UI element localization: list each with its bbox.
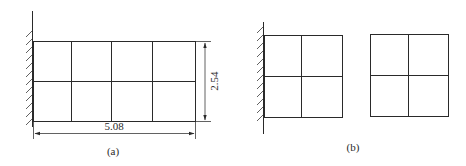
- height-dimension: 2.54: [196, 42, 220, 122]
- mesh-2x2-free: [371, 35, 449, 117]
- mesh-2x2-fixed: [265, 36, 343, 118]
- fixed-support-wall-icon: [257, 22, 264, 134]
- width-dimension-label: 5.08: [104, 120, 124, 132]
- mesh-4x2: [34, 42, 196, 122]
- panel-b: (b): [257, 22, 449, 154]
- height-dimension-label: 2.54: [208, 71, 220, 91]
- panel-a: 2.54 5.08 (a): [26, 11, 220, 158]
- figure-canvas: 2.54 5.08 (a): [0, 0, 466, 166]
- fixed-support-wall-icon: [26, 11, 33, 127]
- panel-b-caption: (b): [347, 141, 360, 154]
- panel-a-caption: (a): [107, 145, 120, 158]
- width-dimension: 5.08: [34, 120, 196, 139]
